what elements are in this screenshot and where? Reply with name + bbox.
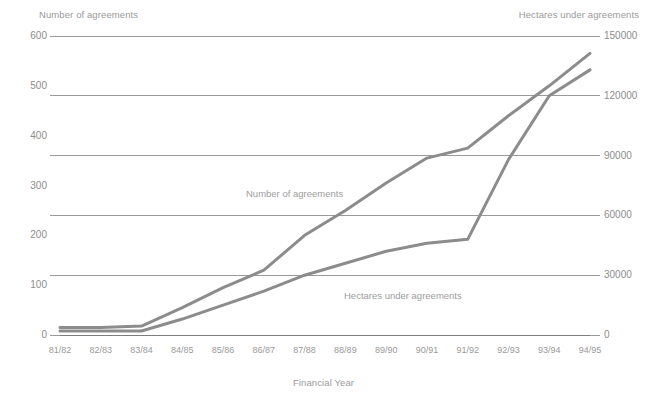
x-axis-tick-label: 94/95 — [568, 345, 612, 355]
x-axis-tick-label: 81/82 — [38, 345, 82, 355]
series-annotation-hectares: Hectares under agreements — [344, 290, 462, 301]
gridlines-group — [60, 36, 590, 335]
left-axis-tick-label: 500 — [5, 81, 47, 91]
x-axis-tick-label: 88/89 — [323, 345, 367, 355]
x-axis-tick-label: 91/92 — [446, 345, 490, 355]
series-annotation-agreements: Number of agreements — [246, 188, 343, 199]
x-axis-tick-label: 93/94 — [527, 345, 571, 355]
x-axis-tick-label: 85/86 — [201, 345, 245, 355]
x-axis-tick-label: 87/88 — [283, 345, 327, 355]
left-axis-tick-label: 200 — [5, 230, 47, 240]
right-tick-marks-group — [590, 36, 600, 335]
left-axis-tick-label: 300 — [5, 181, 47, 191]
left-axis-tick-label: 0 — [5, 330, 47, 340]
right-axis-tick-label: 90000 — [604, 151, 632, 161]
left-axis-tick-label: 600 — [5, 31, 47, 41]
x-axis-tick-label: 86/87 — [242, 345, 286, 355]
x-axis-title: Financial Year — [0, 377, 647, 388]
x-axis-tick-label: 82/83 — [79, 345, 123, 355]
right-axis-tick-label: 30000 — [604, 270, 632, 280]
left-axis-tick-label: 100 — [5, 280, 47, 290]
x-axis-tick-label: 90/91 — [405, 345, 449, 355]
right-axis-tick-label: 60000 — [604, 210, 632, 220]
x-axis-tick-label: 84/85 — [160, 345, 204, 355]
chart-container: Number of agreements Hectares under agre… — [0, 0, 647, 395]
left-axis-tick-label: 400 — [5, 131, 47, 141]
series-line — [60, 70, 590, 331]
x-axis-tick-label: 92/93 — [486, 345, 530, 355]
x-axis-tick-label: 89/90 — [364, 345, 408, 355]
x-axis-tick-label: 83/84 — [120, 345, 164, 355]
right-axis-tick-label: 0 — [604, 330, 610, 340]
left-tick-marks-group — [50, 36, 60, 335]
right-axis-tick-label: 120000 — [604, 91, 637, 101]
right-axis-tick-label: 150000 — [604, 31, 637, 41]
